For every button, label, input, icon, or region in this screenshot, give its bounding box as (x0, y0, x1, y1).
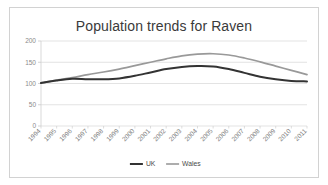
y-axis-tick-labels: 050100150200 (25, 37, 36, 129)
x-axis-tick-label: 2010 (277, 127, 292, 142)
chart-legend: UKWales (130, 160, 201, 167)
plot-area: 050100150200 199419951996199719981999200… (10, 8, 320, 179)
x-axis-tick-label: 2009 (261, 127, 276, 142)
x-axis-tick-label: 1997 (73, 127, 88, 142)
x-axis-tick-label: 1998 (89, 127, 104, 142)
legend-label-wales: Wales (182, 160, 201, 167)
chart-frame: Population trends for Raven 050100150200… (9, 7, 319, 178)
gridlines (38, 41, 307, 126)
x-axis-tick-label: 2000 (120, 127, 135, 142)
chart-card: Population trends for Raven 050100150200… (0, 0, 328, 185)
x-axis-tick-label: 1995 (42, 127, 57, 142)
x-axis-tick-labels: 1994199519961997199819992000200120022003… (27, 126, 308, 142)
y-axis-tick-label: 100 (25, 80, 36, 87)
series-line-uk (41, 66, 307, 83)
x-axis-tick-label: 2008 (246, 127, 261, 142)
x-axis-tick-label: 1999 (105, 127, 120, 142)
x-axis-tick-label: 2003 (167, 127, 182, 142)
x-axis-tick-label: 2004 (183, 127, 198, 142)
y-axis-tick-label: 150 (25, 59, 36, 66)
x-axis-tick-label: 2007 (230, 127, 245, 142)
series-lines (41, 54, 307, 83)
x-axis-tick-label: 2001 (136, 127, 151, 142)
x-axis-tick-label: 2011 (293, 127, 308, 142)
y-axis-tick-label: 200 (25, 37, 36, 44)
x-axis-tick-label: 2006 (214, 127, 229, 142)
line-chart-svg: 050100150200 199419951996199719981999200… (10, 8, 320, 179)
legend-label-uk: UK (146, 160, 156, 167)
x-axis-tick-label: 2005 (199, 127, 214, 142)
x-axis-tick-label: 1994 (27, 127, 42, 142)
x-axis-tick-label: 1996 (58, 127, 73, 142)
y-axis-tick-label: 50 (29, 101, 37, 108)
x-axis-tick-label: 2002 (152, 127, 167, 142)
